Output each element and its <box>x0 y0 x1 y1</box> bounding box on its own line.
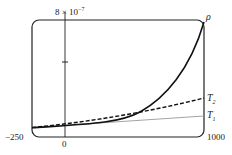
legend-rho: ρ <box>206 12 211 22</box>
y-top-label: 8 × 10−7 <box>55 6 84 17</box>
x-left-label: −250 <box>5 133 24 142</box>
t2-line <box>32 98 204 128</box>
rho-curve <box>32 22 204 128</box>
legend-t2: T2 <box>207 93 216 105</box>
x-zero-label: 0 <box>62 140 67 149</box>
legend-t1: T1 <box>207 110 216 122</box>
chart-canvas <box>0 0 232 155</box>
x-right-label: 1000 <box>207 133 225 142</box>
